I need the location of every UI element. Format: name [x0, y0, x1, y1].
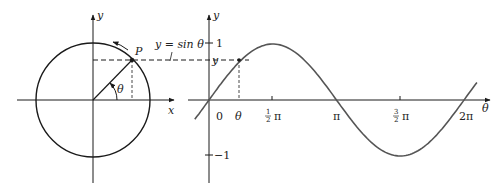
x-tick-half-pi-den: 2	[266, 116, 270, 124]
x-axis-label: x	[168, 104, 175, 117]
x-tick-three-half-sym: π	[402, 110, 409, 123]
y-axis-label: y	[96, 9, 104, 22]
equation-pointer	[170, 52, 172, 61]
radius-line	[93, 60, 132, 100]
x-tick-half-pi-num: 1	[266, 108, 270, 116]
sine-point	[237, 58, 241, 62]
y-value-label: y	[211, 54, 219, 67]
unit-circle-panel: x y P θ	[17, 9, 175, 183]
equation-label: y = sin θ	[154, 38, 204, 51]
x-tick-three-half-den: 2	[394, 116, 398, 124]
y-tick-label-neg1: −1	[214, 149, 230, 162]
x-tick-label-theta: θ	[235, 110, 242, 123]
x-tick-label-0: 0	[216, 110, 223, 123]
x-tick-three-half-num: 3	[394, 108, 398, 116]
graph-y-axis-label: y	[212, 9, 220, 22]
point-p-label: P	[134, 45, 143, 58]
x-tick-half-pi-sym: π	[274, 110, 281, 123]
rotation-arrow-icon	[113, 42, 128, 50]
angle-arc-icon	[110, 83, 117, 100]
sine-graph-panel: 1 −1 y 0 θ 1 2 π π 3 2 π 2π θ y	[188, 9, 490, 183]
y-tick-label-1: 1	[216, 37, 223, 50]
sine-unit-circle-diagram: x y P θ y = sin θ 1 −1 y 0 θ 1 2 π π 3 2…	[0, 0, 499, 188]
theta-axis-label: θ	[482, 102, 489, 115]
x-tick-label-two-pi: 2π	[459, 110, 473, 123]
angle-theta-label: θ	[117, 83, 124, 96]
x-tick-label-pi: π	[333, 110, 340, 123]
